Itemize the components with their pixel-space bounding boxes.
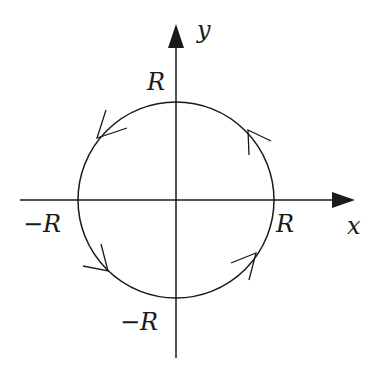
y-axis-arrowhead-icon: [168, 24, 184, 48]
tick-label-x-negative: −R: [23, 210, 61, 238]
tick-label-x-positive: R: [275, 210, 294, 238]
diagram-canvas: y x R −R R −R: [0, 0, 383, 368]
direction-arrow-icon-upper-right: [248, 130, 271, 155]
direction-arrow-icon-upper-left: [97, 110, 127, 138]
x-axis-label: x: [347, 212, 361, 240]
tick-label-y-negative: −R: [120, 308, 158, 336]
tick-label-y-positive: R: [146, 68, 165, 96]
y-axis-label: y: [196, 16, 211, 44]
direction-arrow-icon-lower-right: [231, 253, 256, 280]
contour-diagram: y x R −R R −R: [0, 0, 383, 368]
x-axis-arrowhead-icon: [332, 192, 355, 208]
